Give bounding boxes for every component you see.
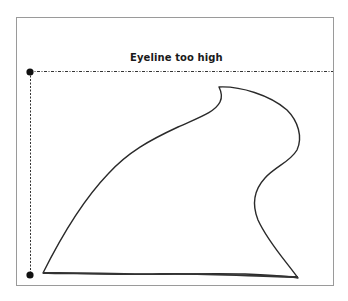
- baseline-dot-icon: [26, 271, 33, 278]
- diagram-canvas: Eyeline too high: [0, 0, 348, 301]
- eyeline-dot-icon: [26, 68, 33, 75]
- diagram-svg: [0, 0, 348, 301]
- eyeline-label: Eyeline too high: [130, 52, 223, 63]
